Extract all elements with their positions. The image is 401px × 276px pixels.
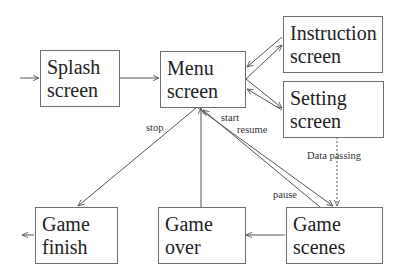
- edge-label-stop: stop: [146, 122, 164, 133]
- menu-to-finish-arrow: [78, 108, 196, 206]
- setting-to-menu-arrow: [247, 89, 282, 110]
- edge-label-start: start: [221, 112, 239, 123]
- node-label-line1: Splash: [47, 56, 119, 79]
- node-label-line1: Game: [165, 213, 245, 236]
- menu-to-setting-arrow: [246, 79, 282, 108]
- node-setting-screen: Setting screen: [283, 81, 384, 138]
- edge-label-data-passing: Data passing: [307, 150, 361, 161]
- node-label-line1: Menu: [167, 57, 245, 80]
- node-label-line2: screen: [167, 80, 245, 103]
- node-label-line1: Game: [293, 213, 382, 236]
- node-label-line2: screen: [290, 45, 382, 68]
- node-game-scenes: Game scenes: [286, 207, 383, 264]
- node-game-over: Game over: [158, 207, 246, 264]
- node-label-line1: Setting: [290, 87, 383, 110]
- node-label-line2: over: [165, 236, 245, 259]
- node-label-line1: Game: [42, 213, 117, 236]
- node-label-line2: scenes: [293, 236, 382, 259]
- node-splash-screen: Splash screen: [40, 50, 120, 107]
- node-menu-screen: Menu screen: [160, 51, 246, 108]
- node-instruction-screen: Instruction screen: [283, 16, 383, 73]
- instruction-to-menu-arrow: [247, 37, 282, 67]
- node-label-line2: screen: [47, 79, 119, 102]
- menu-to-instruction-arrow: [246, 45, 282, 79]
- node-label-line1: Instruction: [290, 22, 382, 45]
- node-label-line2: finish: [42, 236, 117, 259]
- state-diagram: Splash screen Menu screen Instruction sc…: [0, 0, 401, 276]
- node-game-finish: Game finish: [35, 207, 118, 264]
- edge-label-resume: resume: [237, 124, 267, 135]
- edge-label-pause: pause: [273, 189, 297, 200]
- node-label-line2: screen: [290, 110, 383, 133]
